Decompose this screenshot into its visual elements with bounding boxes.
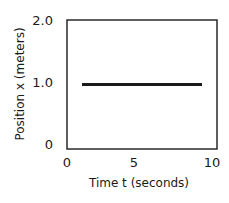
y-axis-label: Position x (meters) xyxy=(13,27,27,140)
x-tick-2: 10 xyxy=(204,155,221,170)
x-axis-label: Time t (seconds) xyxy=(88,176,189,190)
position-time-chart: 2.0 1.0 0 0 5 10 Time t (seconds) Positi… xyxy=(0,0,229,203)
y-tick-2: 2.0 xyxy=(32,13,53,28)
y-tick-1: 1.0 xyxy=(32,75,53,90)
x-tick-0: 0 xyxy=(63,155,71,170)
y-tick-0: 0 xyxy=(45,137,53,152)
x-tick-1: 5 xyxy=(130,155,138,170)
